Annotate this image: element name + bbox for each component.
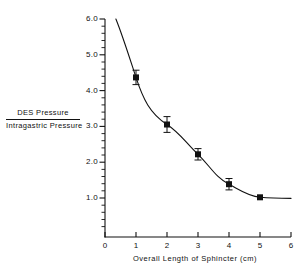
axis-lines: [105, 19, 292, 238]
plot-canvas: [0, 0, 307, 272]
data-point: [164, 122, 170, 128]
data-points: [133, 74, 263, 200]
data-point: [195, 151, 201, 157]
fit-curve: [116, 19, 291, 198]
error-bars: [133, 70, 261, 199]
chart-figure: DES Pressure Intragastric Pressure Overa…: [0, 0, 307, 272]
data-point: [133, 74, 139, 80]
data-point: [257, 194, 263, 200]
y-axis-major-ticks: [100, 19, 106, 198]
data-point: [226, 181, 232, 187]
x-axis-ticks: [105, 232, 291, 237]
